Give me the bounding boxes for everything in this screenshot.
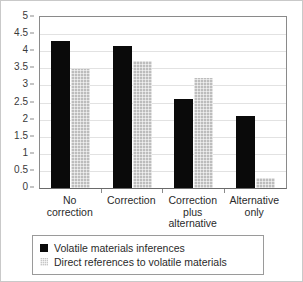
x-tick-label: Nocorrection [39,195,101,218]
y-tick-mark [30,169,34,170]
bar [133,61,152,188]
x-tick-label: Correctionplusalternative [162,195,224,230]
bar [194,78,213,188]
x-tick-mark [101,189,102,193]
bar-group [113,17,152,188]
y-tick-label: 4.5 [14,28,28,38]
y-tick-mark [30,50,34,51]
y-tick-label: 1 [22,148,28,158]
x-tick-mark [162,189,163,193]
y-tick-label: 4 [22,45,28,55]
y-tick-label: 3 [22,79,28,89]
y-tick-label: 0.5 [14,165,28,175]
y-tick-label: 3.5 [14,62,28,72]
legend-swatch-icon [40,258,48,266]
y-tick-mark [30,118,34,119]
legend-item-label: Direct references to volatile materials [54,256,227,268]
y-tick-mark [30,152,34,153]
bar-group [236,17,275,188]
chart-legend: Volatile materials inferences Direct ref… [32,235,264,275]
plot-area [39,16,287,189]
x-axis: NocorrectionCorrectionCorrectionplusalte… [39,191,287,239]
bar [51,41,70,188]
y-axis: 54.543.532.521.510.50 [1,16,34,189]
y-tick-label: 1.5 [14,131,28,141]
y-tick-mark [30,16,34,17]
bar [256,178,275,188]
bar [174,99,193,188]
y-tick-mark [30,33,34,34]
bar [71,69,90,188]
y-tick-mark [30,135,34,136]
legend-item: Direct references to volatile materials [40,255,255,269]
legend-item: Volatile materials inferences [40,241,255,255]
y-tick-label: 2.5 [14,97,28,107]
bar-group [51,17,90,188]
y-tick-label: 0 [22,182,28,192]
bar-chart-figure: 54.543.532.521.510.50 NocorrectionCorrec… [0,0,303,282]
y-tick-label: 2 [22,114,28,124]
y-tick-mark [30,101,34,102]
bar-group [174,17,213,188]
legend-swatch-icon [40,244,48,252]
y-tick-mark [30,187,34,188]
bar [236,116,255,188]
legend-item-label: Volatile materials inferences [54,242,185,254]
bar [113,46,132,188]
y-tick-label: 5 [22,11,28,21]
y-tick-mark [30,67,34,68]
x-tick-label: Correction [101,195,163,207]
y-tick-mark [30,84,34,85]
x-tick-label: Alternativeonly [224,195,286,218]
x-tick-mark [224,189,225,193]
